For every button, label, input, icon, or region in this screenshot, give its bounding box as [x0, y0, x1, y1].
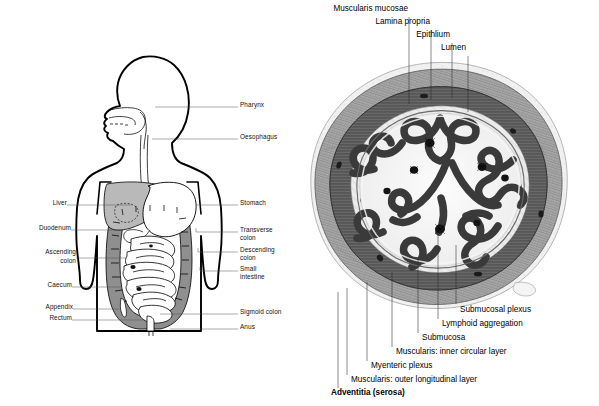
- label-liver: Liver: [20, 199, 67, 207]
- label-submucosa: Submucosa: [422, 333, 465, 343]
- label-muscularis-mucosae: Muscularis mucosae: [320, 4, 408, 14]
- label-ascending-colon-line2: colon: [20, 257, 76, 265]
- right-panel-drawing: [0, 0, 599, 406]
- label-ascending-colon-line1: Ascending: [20, 248, 76, 256]
- label-epithelium: Epithlium: [380, 30, 450, 40]
- label-anus: Anus: [240, 323, 255, 331]
- label-pharynx: Pharynx: [240, 101, 264, 109]
- label-lamina-propria: Lamina propria: [340, 17, 430, 27]
- label-adventitia-serosa: Adventitia (serosa): [331, 388, 405, 398]
- label-transverse-colon-line1: Transverse: [240, 226, 273, 234]
- figure-canvas: Liver Duodenum Ascending colon Caecum Ap…: [0, 0, 599, 406]
- label-lymphoid-aggregation: Lymphoid aggregation: [442, 319, 523, 329]
- label-small-intestine-line2: intestine: [240, 273, 265, 281]
- label-muscularis-outer-longitudinal: Muscularis: outer longitudinal layer: [351, 375, 477, 385]
- label-submucosal-plexus: Submucosal plexus: [460, 305, 531, 315]
- label-transverse-colon-line2: colon: [240, 234, 256, 242]
- label-sigmoid-colon: Sigmoid colon: [240, 308, 281, 316]
- label-caecum: Caecum: [20, 281, 72, 289]
- label-myenteric-plexus: Myenteric plexus: [371, 361, 432, 371]
- label-oesophagus: Oesophagus: [240, 133, 277, 141]
- label-rectum: Rectum: [14, 314, 72, 322]
- label-descending-colon-line1: Descending: [240, 246, 275, 254]
- label-muscularis-inner-circular: Muscularis: inner circular layer: [396, 347, 507, 357]
- label-appendix: Appendix: [14, 303, 73, 311]
- label-duodenum: Duodenum: [10, 224, 71, 232]
- label-stomach: Stomach: [240, 199, 266, 207]
- label-small-intestine-line1: Small: [240, 265, 256, 273]
- label-lumen: Lumen: [400, 43, 466, 53]
- serosal-tag: [513, 282, 536, 296]
- label-descending-colon-line2: colon: [240, 254, 256, 262]
